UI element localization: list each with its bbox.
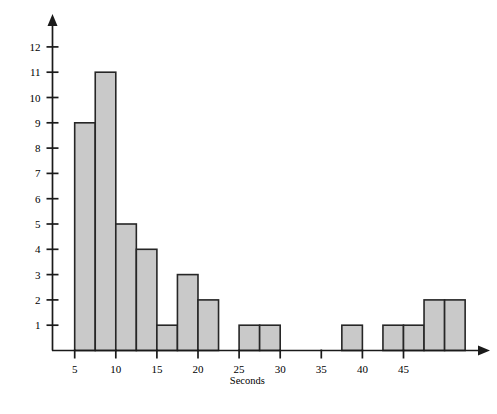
y-tick-label: 4 (35, 243, 41, 255)
histogram-chart: 123456789101112 51015202530354045 Second… (0, 0, 497, 414)
histogram-bar (424, 300, 445, 351)
histogram-bar (177, 275, 198, 351)
y-axis-ticks: 123456789101112 (30, 41, 59, 331)
x-axis-title: Seconds (230, 375, 265, 386)
histogram-bar (342, 325, 363, 350)
x-tick-label: 20 (193, 363, 205, 375)
y-tick-label: 11 (30, 66, 41, 78)
y-tick-label: 2 (35, 294, 41, 306)
x-tick-label: 30 (275, 363, 287, 375)
histogram-bar (239, 325, 260, 350)
bars-group (75, 72, 465, 350)
histogram-bar (75, 123, 96, 351)
histogram-bar (136, 249, 157, 350)
y-tick-label: 9 (35, 117, 41, 129)
y-tick-label: 8 (35, 142, 41, 154)
x-tick-label: 45 (398, 363, 410, 375)
y-tick-label: 10 (30, 92, 42, 104)
y-tick-label: 6 (35, 193, 41, 205)
x-tick-label: 15 (151, 363, 163, 375)
y-tick-label: 3 (35, 269, 41, 281)
y-tick-label: 12 (30, 41, 41, 53)
y-tick-label: 7 (35, 167, 41, 179)
x-axis-arrow-icon (478, 346, 490, 356)
x-tick-label: 40 (357, 363, 369, 375)
x-tick-label: 25 (234, 363, 246, 375)
x-axis-ticks: 51015202530354045 (72, 350, 410, 375)
histogram-bar (95, 72, 116, 350)
histogram-bar (260, 325, 281, 350)
histogram-bar (445, 300, 466, 351)
x-tick-label: 5 (72, 363, 78, 375)
x-tick-label: 35 (316, 363, 328, 375)
x-tick-label: 10 (110, 363, 122, 375)
histogram-bar (383, 325, 404, 350)
histogram-bar (198, 300, 219, 351)
histogram-bar (116, 224, 137, 351)
y-tick-label: 5 (35, 218, 41, 230)
chart-canvas: 123456789101112 51015202530354045 Second… (0, 0, 497, 414)
y-axis-arrow-icon (48, 14, 58, 26)
histogram-bar (403, 325, 424, 350)
histogram-bar (157, 325, 178, 350)
y-tick-label: 1 (35, 319, 41, 331)
